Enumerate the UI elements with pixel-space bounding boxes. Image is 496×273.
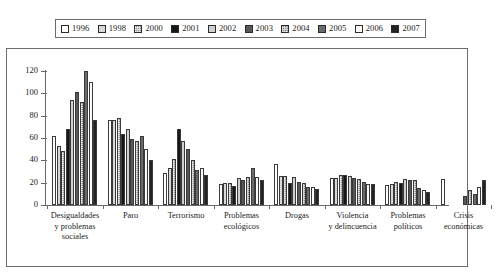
bar-series-area [46,70,449,205]
bar [149,160,153,205]
bar [200,168,204,205]
bar [426,192,430,205]
bar [246,177,250,205]
bar [241,180,245,205]
bar [390,184,394,205]
legend-swatch-icon [208,25,216,33]
bar [163,173,167,205]
bar [57,146,61,205]
bar [108,120,112,205]
bar [177,129,181,205]
x-tick-mark [491,205,492,209]
x-tick-mark [269,205,270,209]
bar [482,180,486,205]
legend-label: 1998 [109,24,126,33]
bar [408,180,412,205]
bar [297,182,301,205]
bar [334,178,338,205]
bar [306,187,310,205]
bar-group [52,70,98,205]
bar [66,129,70,205]
bar [330,178,334,205]
y-tick-label: 120 [0,66,38,75]
bar [477,187,481,205]
bar [204,175,208,205]
bar [394,182,398,205]
bar [274,164,278,205]
y-tick-label: 100 [0,88,38,97]
bar [362,182,366,205]
x-category-label-line: ecológicos [204,222,280,233]
x-tick-mark [214,205,215,209]
bar [232,186,236,205]
bar-group [330,70,376,205]
bar [352,178,356,205]
y-tick-label: 80 [0,111,38,120]
legend-label: 2007 [402,24,419,33]
bar [441,179,445,205]
bar-group [274,70,320,205]
bar [126,129,130,205]
legend-label: 2006 [366,24,383,33]
bar [468,190,472,205]
x-category-label-line: Crisis [426,211,496,222]
legend-item-2004[interactable]: 2004 [281,24,309,33]
bar [366,184,370,205]
bar [343,175,347,205]
x-category-label-line: económicas [426,222,496,233]
bar-group [441,70,487,205]
legend-item-2007[interactable]: 2007 [391,24,419,33]
bar [219,184,223,205]
bar [422,190,426,205]
legend-item-2001[interactable]: 2001 [171,24,199,33]
bar [61,151,65,205]
bar [89,82,93,205]
x-tick-mark [47,205,48,209]
bar-group [163,70,209,205]
bar [223,183,227,205]
bar [357,179,361,205]
y-tick-label: 40 [0,155,38,164]
bar [181,141,185,205]
bar [93,120,97,205]
y-tick-label: 20 [0,178,38,187]
legend-label: 2003 [256,24,273,33]
bar [80,102,84,205]
bar [195,170,199,205]
x-tick-mark [436,205,437,209]
bar [237,178,241,205]
bar [371,184,375,205]
y-tick-label: 60 [0,133,38,142]
y-tick-label: 0 [0,200,38,209]
legend-label: 2000 [145,24,162,33]
bar [52,136,56,205]
x-axis-line [45,205,449,206]
x-category-label: Crisiseconómicas [426,211,496,232]
bar [84,71,88,205]
legend-swatch-icon [281,25,289,33]
bar [302,183,306,205]
legend-item-2006[interactable]: 2006 [355,24,383,33]
legend-item-2002[interactable]: 2002 [208,24,236,33]
legend-swatch-icon [391,25,399,33]
bar [399,183,403,205]
bar [348,176,352,205]
legend-item-2003[interactable]: 2003 [245,24,273,33]
bar-group [108,70,154,205]
legend-item-1996[interactable]: 1996 [61,24,89,33]
x-tick-mark [103,205,104,209]
legend-item-2005[interactable]: 2005 [318,24,346,33]
bar [117,118,121,205]
bar [288,183,292,205]
legend-item-1998[interactable]: 1998 [98,24,126,33]
legend-item-2000[interactable]: 2000 [134,24,162,33]
bar [339,175,343,205]
x-category-label-line: y problemas [37,222,113,233]
bar [168,168,172,205]
bar [473,194,477,205]
bar [255,177,259,205]
bar [70,100,74,205]
bar [191,160,195,205]
bar [130,139,134,205]
x-tick-mark [380,205,381,209]
